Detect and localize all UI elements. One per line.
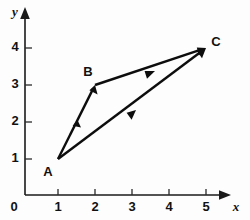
- x-tick-group: 1 2 3 4 5: [54, 189, 209, 214]
- vector-diagram-figure: y x 0 1 2 3 4 5: [0, 0, 250, 220]
- x-tick-label: 3: [128, 199, 135, 214]
- vector-ac-line: [58, 51, 203, 160]
- y-tick-label: 4: [11, 39, 19, 54]
- x-tick-label: 2: [91, 199, 98, 214]
- y-tick-group: 1 2 3 4: [11, 39, 32, 165]
- point-label-b: B: [83, 64, 92, 79]
- x-axis-label: x: [232, 199, 240, 214]
- x-axis-arrow-icon: [219, 190, 231, 200]
- y-axis-arrow-icon: [20, 7, 30, 19]
- vector-ac: [58, 48, 206, 159]
- figure-canvas: y x 0 1 2 3 4 5: [0, 0, 250, 220]
- x-tick-label: 4: [165, 199, 173, 214]
- y-tick-label: 2: [11, 113, 18, 128]
- y-tick-label: 3: [11, 76, 18, 91]
- y-tick-label: 1: [11, 150, 18, 165]
- vector-bc-mid-arrow-icon: [145, 71, 155, 79]
- vector-ac-mid-arrow-icon: [127, 110, 136, 120]
- x-tick-label: 5: [202, 199, 209, 214]
- vector-bc: [95, 48, 206, 85]
- vector-bc-line: [95, 49, 203, 85]
- vector-ab: [58, 85, 98, 159]
- point-label-c: C: [211, 34, 221, 49]
- origin-label: 0: [10, 199, 17, 214]
- x-tick-label: 1: [54, 199, 61, 214]
- y-axis-label: y: [10, 4, 18, 19]
- point-label-a: A: [43, 164, 53, 179]
